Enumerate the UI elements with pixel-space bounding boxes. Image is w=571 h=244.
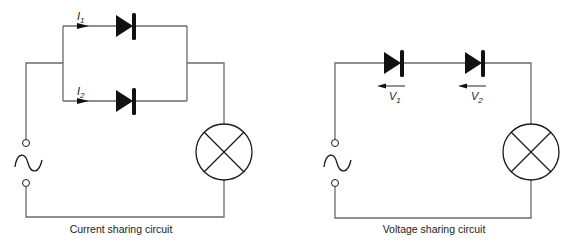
voltage-label-v2: V2 [471,90,483,105]
wire-left-top [26,63,63,139]
ac-source-icon [15,140,42,187]
caption-voltage-sharing: Voltage sharing circuit [383,223,486,235]
ac-source-icon [324,140,351,187]
wire-right-top [187,63,224,124]
voltage-label-v1: V1 [389,90,401,105]
diode-icon [465,50,485,77]
voltage-sharing-circuit: V1 V2 Voltage sharing circuit [324,50,559,235]
diode-icon [116,88,136,115]
diode-icon [116,13,136,40]
voltage-arrow-icon [377,84,405,89]
lamp-icon [503,124,559,180]
caption-current-sharing: Current sharing circuit [70,223,173,235]
wire-top [335,63,531,139]
current-label-i1: I1 [77,10,85,25]
parallel-branch-box [63,26,187,101]
circuit-diagrams: I1 I2 Current sharing circuit [0,0,571,244]
lamp-icon [196,124,252,180]
wire-bottom [335,180,531,218]
current-sharing-circuit: I1 I2 Current sharing circuit [15,10,252,235]
current-label-i2: I2 [77,85,85,100]
voltage-arrow-icon [458,84,486,89]
diode-icon [384,50,404,77]
wire-left-bottom [26,180,224,217]
